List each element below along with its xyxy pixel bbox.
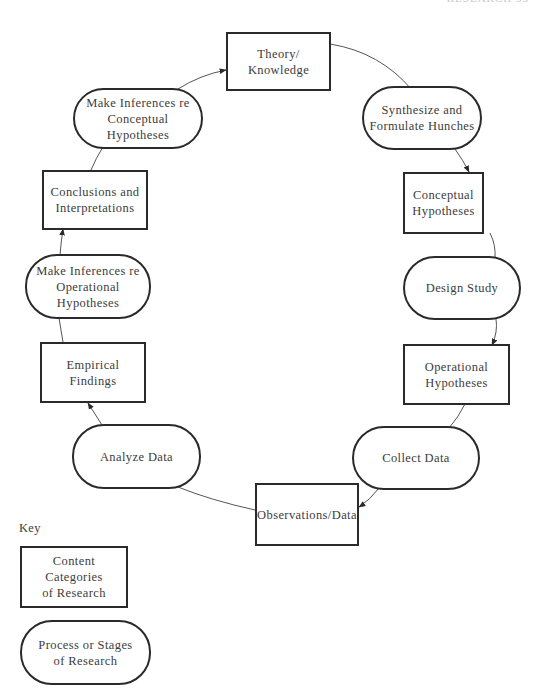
- node-conclusions-interpretations: Conclusions and Interpretations: [42, 170, 148, 230]
- edge-empirical-infop: [59, 318, 63, 342]
- edge-conclusions-infcon: [91, 147, 103, 170]
- key-label: Process or Stages of Research: [38, 637, 132, 669]
- node-empirical-findings: Empirical Findings: [40, 342, 146, 403]
- node-label: Operational Hypotheses: [425, 359, 488, 391]
- node-make-inferences-conceptual: Make Inferences re Conceptual Hypotheses: [73, 88, 203, 149]
- node-label: Collect Data: [382, 450, 450, 466]
- node-collect-data: Collect Data: [352, 426, 480, 490]
- edge-design-operational: [492, 319, 497, 345]
- edge-collect-observations: [359, 488, 379, 507]
- node-label: Conceptual Hypotheses: [412, 187, 474, 219]
- edge-infop-conclusions: [60, 229, 63, 255]
- research-cycle-diagram: RESEARCH 33: [0, 0, 549, 698]
- edge-observations-analyze: [178, 487, 255, 510]
- edge-conceptual-design: [490, 233, 495, 258]
- node-conceptual-hypotheses: Conceptual Hypotheses: [403, 172, 484, 234]
- key-label: Content Categories of Research: [24, 553, 124, 601]
- node-synthesize-formulate-hunches: Synthesize and Formulate Hunches: [362, 86, 482, 150]
- node-observations-data: Observations/Data: [255, 483, 359, 546]
- node-label: Make Inferences re Operational Hypothese…: [29, 263, 147, 311]
- node-label: Design Study: [426, 280, 499, 296]
- node-label: Synthesize and Formulate Hunches: [369, 102, 474, 134]
- node-label: Make Inferences re Conceptual Hypotheses: [77, 95, 199, 143]
- edge-analyze-empirical: [88, 403, 102, 425]
- node-operational-hypotheses: Operational Hypotheses: [403, 344, 510, 405]
- node-make-inferences-operational: Make Inferences re Operational Hypothese…: [25, 254, 151, 319]
- node-design-study: Design Study: [403, 256, 521, 320]
- key-item-content-categories: Content Categories of Research: [20, 546, 128, 608]
- key-title: Key: [19, 521, 41, 536]
- node-label: Conclusions and Interpretations: [51, 184, 140, 216]
- node-theory-knowledge: Theory/ Knowledge: [226, 32, 331, 91]
- node-label: Analyze Data: [100, 449, 173, 465]
- node-label: Observations/Data: [257, 507, 357, 523]
- node-analyze-data: Analyze Data: [72, 424, 201, 489]
- edge-infcon-theory: [178, 70, 226, 89]
- edge-synthesize-conceptual: [455, 149, 469, 172]
- edge-operational-collect: [449, 404, 465, 428]
- edge-theory-synthesize: [330, 44, 412, 90]
- node-label: Theory/ Knowledge: [248, 46, 309, 78]
- node-label: Empirical Findings: [67, 357, 120, 389]
- key-item-process-stages: Process or Stages of Research: [20, 620, 151, 685]
